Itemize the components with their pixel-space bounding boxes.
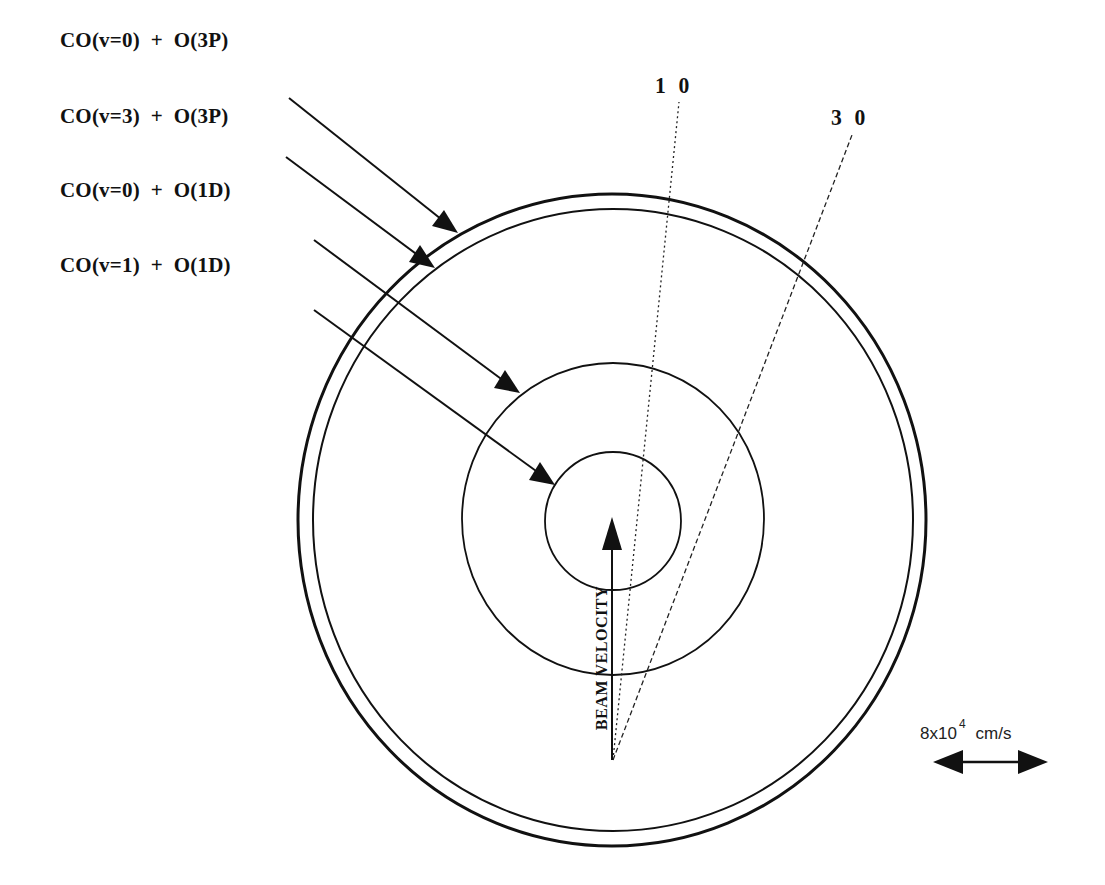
channel-label-co-v3-o3p: CO(v=3) + O(3P) xyxy=(60,104,228,129)
arrowhead-icon xyxy=(602,517,622,550)
scale-exponent: 4 xyxy=(959,717,966,731)
channel-label-co-v1-o1d: CO(v=1) + O(1D) xyxy=(60,253,231,278)
arrowhead-icon xyxy=(432,210,458,233)
scale-unit: cm/s xyxy=(976,724,1012,743)
channel-label-co-v0-o1d: CO(v=0) + O(1D) xyxy=(60,178,231,203)
arrowhead-icon xyxy=(494,370,520,393)
pointer-arrow-co-v3-o3p xyxy=(286,157,435,268)
arrowhead-icon xyxy=(529,462,555,485)
scale-bar-arrow xyxy=(933,750,1048,774)
scale-bar-label: 8x104cm/s xyxy=(920,721,1011,744)
beam-velocity-label: BEAM VELOCITY xyxy=(592,586,612,731)
arrowhead-icon xyxy=(409,245,435,268)
velocity-diagram xyxy=(0,0,1105,885)
channel-label-co-v0-o3p: CO(v=0) + O(3P) xyxy=(60,28,228,53)
pointer-arrow-co-v0-o3p xyxy=(289,98,458,233)
scale-mantissa: 8x10 xyxy=(920,724,957,743)
angle-label-10: 1 0 xyxy=(655,72,693,99)
angle-label-30: 3 0 xyxy=(831,104,869,131)
angle-line-30 xyxy=(613,135,852,760)
arrowhead-left-icon xyxy=(933,750,963,774)
arrowhead-right-icon xyxy=(1018,750,1048,774)
